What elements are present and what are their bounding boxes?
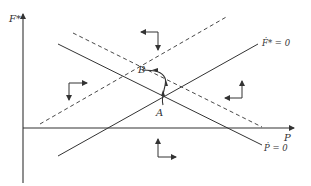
pdot-zero-label: Ṗ = 0 xyxy=(263,142,288,153)
phase-diagram: F* P Ḟ* = 0 Ṗ = 0 A B xyxy=(0,0,311,186)
direction-arrow-left-icon xyxy=(69,83,87,100)
point-b-label: B xyxy=(137,64,145,75)
pdot-zero-shifted-line xyxy=(73,33,262,127)
direction-arrow-bottom-icon xyxy=(158,139,176,157)
point-a-label: A xyxy=(155,107,163,118)
y-axis-label: F* xyxy=(8,13,21,24)
fdot-zero-label: Ḟ* = 0 xyxy=(261,37,291,48)
direction-arrow-right-icon xyxy=(225,81,242,98)
direction-arrow-top-icon xyxy=(141,32,158,50)
fdot-zero-shifted-line xyxy=(40,16,228,124)
x-axis-label: P xyxy=(283,132,291,143)
path-arrow-icon xyxy=(161,90,165,96)
